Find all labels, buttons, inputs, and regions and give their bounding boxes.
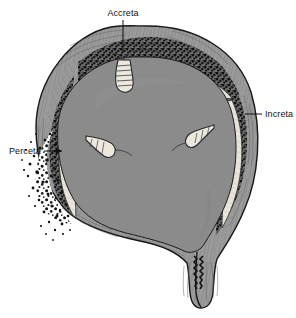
label-increta-text: Increta (265, 109, 293, 119)
label-accreta-text: Accreta (107, 8, 138, 18)
label-perceta-text: Perceta (9, 146, 41, 156)
placenta-invasion-figure: Accreta Increta Perceta (0, 0, 296, 318)
